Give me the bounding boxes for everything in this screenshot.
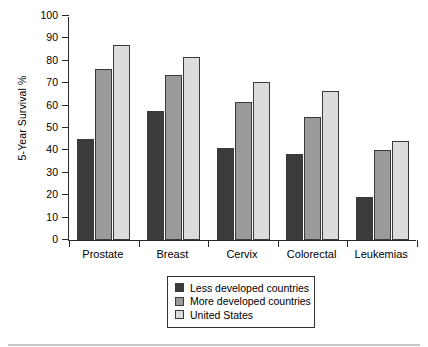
bar-group: [286, 17, 339, 240]
y-axis-tick-label: 30: [46, 166, 58, 178]
bar-group: [77, 17, 130, 240]
x-axis-tick: [69, 240, 70, 247]
legend-label: United States: [190, 309, 253, 321]
bar: [374, 150, 391, 240]
y-axis-tick-label: 80: [46, 54, 58, 66]
x-axis-label: Breast: [138, 248, 208, 260]
x-axis-tick: [347, 240, 348, 247]
y-axis-tick: 10: [62, 217, 69, 218]
bar: [95, 69, 112, 240]
y-axis-tick-label: 0: [52, 233, 58, 245]
y-axis-tick-label: 50: [46, 121, 58, 133]
legend-swatch: [175, 297, 184, 306]
bar: [77, 139, 94, 240]
x-axis-label: Prostate: [68, 248, 138, 260]
y-axis-tick-label: 60: [46, 99, 58, 111]
plot-area: 1009080706050403020100: [68, 17, 416, 241]
x-axis-tick: [417, 240, 418, 247]
y-axis-tick-label: 20: [46, 188, 58, 200]
y-axis-tick-label: 90: [46, 31, 58, 43]
y-axis-tick-label: 100: [40, 9, 58, 21]
x-axis-label: Leukemias: [346, 248, 416, 260]
y-axis-tick-label: 40: [46, 143, 58, 155]
bar: [304, 117, 321, 240]
x-axis-tick: [278, 240, 279, 247]
y-axis-tick: 0: [62, 239, 69, 240]
bar-group: [147, 17, 200, 240]
bar: [217, 148, 234, 240]
y-axis-tick-label: 10: [46, 211, 58, 223]
bar: [147, 111, 164, 240]
legend-swatch: [175, 283, 184, 292]
legend-item: United States: [175, 308, 308, 321]
y-axis-tick: 100: [62, 15, 69, 16]
bar: [286, 154, 303, 240]
legend-label: More developed countries: [190, 295, 311, 307]
y-axis-tick: 90: [62, 37, 69, 38]
legend-item: More developed countries: [175, 295, 308, 308]
y-axis-tick: 70: [62, 82, 69, 83]
bar-group: [217, 17, 270, 240]
bar-group: [356, 17, 409, 240]
x-axis-label: Colorectal: [277, 248, 347, 260]
bar: [235, 102, 252, 240]
legend: Less developed countriesMore developed c…: [167, 276, 315, 328]
bar: [392, 141, 409, 240]
y-axis-tick: 30: [62, 172, 69, 173]
bar: [113, 45, 130, 240]
legend-item: Less developed countries: [175, 281, 308, 294]
x-axis-label: Cervix: [207, 248, 277, 260]
bar-chart-figure: 5-Year Survival % 1009080706050403020100…: [0, 0, 428, 347]
y-axis-tick: 60: [62, 105, 69, 106]
bar: [322, 91, 339, 240]
y-axis-tick: 50: [62, 127, 69, 128]
bar: [253, 82, 270, 240]
bar: [165, 75, 182, 240]
y-axis-title: 5-Year Survival %: [16, 53, 28, 183]
caption-rule: [8, 344, 420, 346]
y-axis-tick-label: 70: [46, 76, 58, 88]
y-axis-tick: 80: [62, 60, 69, 61]
x-axis-tick: [208, 240, 209, 247]
y-axis-tick: 40: [62, 149, 69, 150]
y-axis-tick: 20: [62, 194, 69, 195]
legend-label: Less developed countries: [190, 282, 309, 294]
x-axis-tick: [139, 240, 140, 247]
legend-swatch: [175, 310, 184, 319]
bar: [183, 57, 200, 240]
bar: [356, 197, 373, 240]
